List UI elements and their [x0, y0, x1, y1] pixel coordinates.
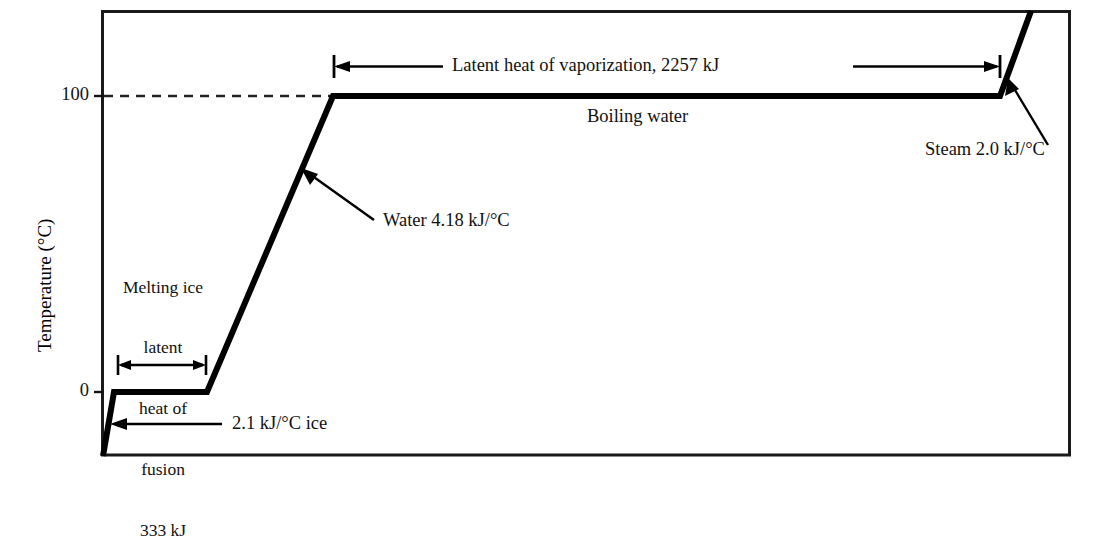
plot-frame — [103, 12, 1070, 456]
annotation-steam-capacity: Steam 2.0 kJ/°C — [925, 139, 1045, 160]
annotation-vaporization: Latent heat of vaporization, 2257 kJ — [452, 55, 719, 76]
leader-steam — [1005, 78, 1048, 145]
annotation-water-capacity: Water 4.18 kJ/°C — [383, 210, 510, 231]
y-axis-title: Temperature (°C) — [34, 219, 56, 352]
leader-water — [301, 168, 374, 220]
annotation-melting-ice: Melting ice latent heat of fusion 333 kJ — [104, 236, 222, 540]
melting-ice-line-4: fusion — [104, 459, 222, 479]
melting-ice-line-3: heat of — [104, 398, 222, 418]
y-tick-label-100: 100 — [41, 84, 89, 105]
y-tick-label-0: 0 — [65, 380, 89, 401]
melting-ice-line-2: latent — [104, 337, 222, 357]
heating-curve — [103, 11, 1031, 456]
melting-ice-line-1: Melting ice — [104, 277, 222, 297]
annotation-boiling-water: Boiling water — [587, 106, 688, 127]
melting-ice-line-5: 333 kJ — [104, 520, 222, 540]
annotation-ice-capacity: 2.1 kJ/°C ice — [232, 413, 327, 434]
